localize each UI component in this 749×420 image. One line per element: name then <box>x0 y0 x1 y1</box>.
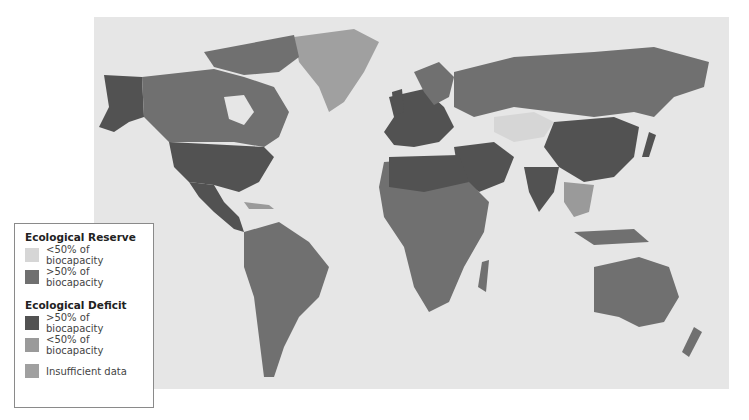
legend-item-deficit-high: >50% of biocapacity <box>25 312 143 334</box>
region-south-america <box>244 222 329 377</box>
world-map <box>94 17 729 389</box>
region-kazakhstan <box>494 112 554 142</box>
region-india <box>524 167 559 212</box>
legend-deficit-title: Ecological Deficit <box>25 298 143 312</box>
region-madagascar <box>478 260 489 292</box>
region-uk <box>392 89 404 115</box>
legend-label: <50% of biocapacity <box>46 334 143 356</box>
legend-swatch-insufficient <box>25 364 39 378</box>
region-new-zealand <box>682 327 702 357</box>
region-canada <box>142 69 289 147</box>
legend-swatch-deficit-high <box>25 316 39 330</box>
legend-label: >50% of biocapacity <box>46 266 143 288</box>
legend-swatch-reserve-high <box>25 270 39 284</box>
legend-item-deficit-low: <50% of biocapacity <box>25 334 143 356</box>
region-usa <box>169 142 274 192</box>
region-alaska <box>99 75 144 132</box>
legend-reserve-title: Ecological Reserve <box>25 230 143 244</box>
legend-swatch-deficit-low <box>25 338 39 352</box>
legend-label: <50% of biocapacity <box>46 244 143 266</box>
legend-label: >50% of biocapacity <box>46 312 143 334</box>
legend-reserve-section: Ecological Reserve <50% of biocapacity >… <box>25 230 143 288</box>
legend-item-insufficient: Insufficient data <box>25 360 143 382</box>
region-russia <box>454 47 709 117</box>
legend-item-reserve-high: >50% of biocapacity <box>25 266 143 288</box>
region-indonesia <box>574 229 649 245</box>
legend-swatch-reserve-low <box>25 248 39 262</box>
region-australia <box>594 257 679 327</box>
world-map-svg <box>94 17 729 389</box>
region-china <box>544 117 639 182</box>
region-caribbean <box>244 202 274 209</box>
region-canada-arctic <box>204 35 299 75</box>
map-legend: Ecological Reserve <50% of biocapacity >… <box>14 223 154 408</box>
legend-label: Insufficient data <box>46 366 127 377</box>
region-greenland <box>294 29 379 112</box>
region-japan <box>642 132 656 157</box>
region-se-asia <box>564 182 594 217</box>
legend-deficit-section: Ecological Deficit >50% of biocapacity <… <box>25 298 143 356</box>
legend-item-reserve-low: <50% of biocapacity <box>25 244 143 266</box>
